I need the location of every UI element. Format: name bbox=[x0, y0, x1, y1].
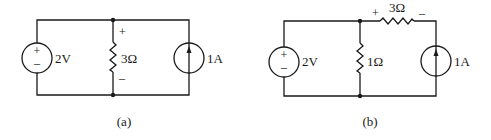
resistor-a: + 3Ω – bbox=[110, 25, 137, 85]
circuit-figure: + – 2V + 3Ω – 1A (a) + bbox=[0, 0, 491, 140]
res-a-minus: – bbox=[118, 71, 126, 85]
res-a-label: 3Ω bbox=[121, 51, 137, 66]
res-b-shunt-label: 1Ω bbox=[367, 54, 383, 69]
node-b-bottom bbox=[358, 94, 362, 98]
cs-b-label: 1A bbox=[454, 54, 471, 69]
res-a-plus: + bbox=[119, 25, 126, 39]
res-b-series-label: 3Ω bbox=[389, 0, 405, 15]
current-source-b: 1A bbox=[421, 46, 471, 76]
vs-a-label: 2V bbox=[55, 51, 72, 66]
wire-b-right-top bbox=[414, 21, 436, 46]
node-a-bottom bbox=[111, 93, 115, 97]
cs-a-label: 1A bbox=[207, 51, 224, 66]
voltage-source-b: + – 2V bbox=[269, 47, 319, 77]
res-b-series-plus: + bbox=[372, 6, 379, 20]
resistor-icon bbox=[380, 18, 414, 24]
resistor-icon bbox=[357, 43, 363, 73]
current-source-a: 1A bbox=[174, 43, 224, 73]
caption-b: (b) bbox=[362, 114, 377, 129]
resistor-b-shunt: 1Ω bbox=[357, 43, 383, 73]
voltage-source-a: + – 2V bbox=[22, 43, 72, 73]
arrow-head-icon bbox=[434, 49, 439, 56]
circuit-b: + – 2V 1Ω + 3Ω – 1A (b) bbox=[269, 0, 471, 129]
res-b-series-minus: – bbox=[418, 6, 426, 20]
wire-b-left bbox=[284, 21, 380, 47]
node-b-top bbox=[358, 19, 362, 23]
circuit-a: + – 2V + 3Ω – 1A (a) bbox=[22, 18, 224, 129]
vs-b-label: 2V bbox=[302, 54, 319, 69]
node-a-top bbox=[111, 18, 115, 22]
vs-b-minus: – bbox=[280, 60, 288, 74]
vs-a-minus: – bbox=[33, 56, 41, 70]
caption-a: (a) bbox=[117, 114, 131, 129]
arrow-head-icon bbox=[187, 46, 192, 53]
resistor-icon bbox=[110, 42, 116, 72]
